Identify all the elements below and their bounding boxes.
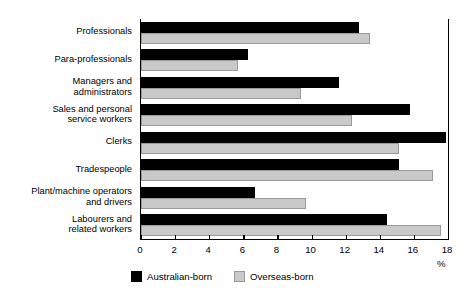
- bar-overseas-born: [141, 143, 399, 154]
- x-axis-tick: [448, 235, 449, 240]
- bar-overseas-born: [141, 198, 306, 209]
- x-axis-tick-label: 8: [261, 244, 291, 255]
- bar-group: [141, 47, 448, 75]
- category-label: Labourers and related workers: [0, 214, 132, 235]
- bar-australian-born: [141, 132, 446, 143]
- x-axis-tick-label: 4: [193, 244, 223, 255]
- bar-australian-born: [141, 104, 410, 115]
- bar-overseas-born: [141, 33, 370, 44]
- x-axis-tick: [141, 235, 142, 240]
- bar-group: [141, 184, 448, 212]
- x-axis-unit-label: %: [437, 258, 446, 269]
- x-axis-tick-label: 2: [159, 244, 189, 255]
- category-label: Para-professionals: [0, 54, 132, 65]
- legend-swatch-grey: [234, 271, 245, 282]
- x-axis-tick: [380, 235, 381, 240]
- bar-australian-born: [141, 49, 248, 60]
- legend-label: Australian-born: [147, 271, 212, 282]
- plot-area: [140, 19, 449, 240]
- bar-australian-born: [141, 159, 399, 170]
- x-axis-tick: [414, 235, 415, 240]
- bar-australian-born: [141, 187, 255, 198]
- bar-overseas-born: [141, 115, 352, 126]
- category-label: Professionals: [0, 26, 132, 37]
- bar-group: [141, 212, 448, 240]
- category-label: Plant/machine operators and drivers: [0, 186, 132, 207]
- bar-overseas-born: [141, 60, 238, 71]
- x-axis-tick-label: 16: [398, 244, 428, 255]
- bar-overseas-born: [141, 88, 301, 99]
- x-axis-tick-label: 14: [364, 244, 394, 255]
- x-axis-tick-label: 6: [227, 244, 257, 255]
- bar-group: [141, 19, 448, 47]
- bar-rows: [141, 19, 448, 239]
- bar-group: [141, 102, 448, 130]
- bar-group: [141, 157, 448, 185]
- x-axis-tick-label: 0: [125, 244, 155, 255]
- x-axis-tick: [209, 235, 210, 240]
- x-axis-tick: [312, 235, 313, 240]
- x-axis-tick: [277, 235, 278, 240]
- bar-group: [141, 129, 448, 157]
- x-axis-tick-label: 18: [432, 244, 462, 255]
- x-axis-tick-label: 10: [296, 244, 326, 255]
- bar-overseas-born: [141, 225, 441, 236]
- category-label: Clerks: [0, 136, 132, 147]
- legend-item[interactable]: Australian-born: [131, 271, 212, 282]
- x-axis-tick: [243, 235, 244, 240]
- bar-group: [141, 74, 448, 102]
- category-axis-labels: ProfessionalsPara-professionalsManagers …: [0, 19, 136, 239]
- legend-label: Overseas-born: [250, 271, 313, 282]
- x-axis-tick-label: 12: [330, 244, 360, 255]
- category-label: Sales and personal service workers: [0, 104, 132, 125]
- legend-item[interactable]: Overseas-born: [234, 271, 313, 282]
- chart-legend: Australian-bornOverseas-born: [131, 271, 314, 282]
- x-axis-tick: [175, 235, 176, 240]
- bar-chart: ProfessionalsPara-professionalsManagers …: [0, 0, 464, 297]
- bar-australian-born: [141, 22, 359, 33]
- bar-overseas-born: [141, 170, 433, 181]
- category-label: Managers and administrators: [0, 76, 132, 97]
- x-axis-tick: [346, 235, 347, 240]
- legend-swatch-black: [131, 271, 142, 282]
- bar-australian-born: [141, 77, 339, 88]
- bar-australian-born: [141, 214, 387, 225]
- category-label: Tradespeople: [0, 164, 132, 175]
